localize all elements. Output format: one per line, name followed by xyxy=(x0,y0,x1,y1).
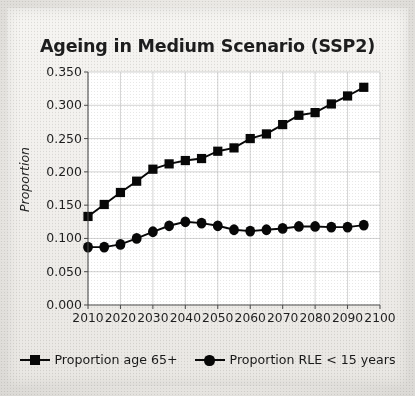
circle-marker-icon xyxy=(195,353,225,366)
data-point xyxy=(229,224,239,235)
data-point xyxy=(164,220,174,231)
data-point xyxy=(294,221,304,232)
legend-item-age65: Proportion age 65+ xyxy=(20,352,178,367)
data-point xyxy=(262,129,271,138)
data-point xyxy=(148,226,158,237)
data-point xyxy=(181,156,190,165)
y-axis-tick-labels: 0.3500.3000.2500.2000.1500.1000.0500.000 xyxy=(24,0,82,396)
data-point xyxy=(100,200,109,209)
data-point xyxy=(99,242,109,253)
data-point xyxy=(359,83,368,92)
data-point xyxy=(116,188,125,197)
plot-background xyxy=(88,72,380,305)
y-tick-label: 0.200 xyxy=(28,164,82,179)
data-point xyxy=(278,223,288,234)
data-point xyxy=(132,177,141,186)
data-point xyxy=(310,221,320,232)
data-point xyxy=(278,120,287,129)
data-point xyxy=(229,143,238,152)
legend-label-age65: Proportion age 65+ xyxy=(55,352,178,367)
x-tick-label: 2100 xyxy=(357,311,403,325)
data-point xyxy=(197,154,206,163)
chart-figure: Ageing in Medium Scenario (SSP2) Proport… xyxy=(0,0,415,396)
y-tick-label: 0.150 xyxy=(28,197,82,212)
data-point xyxy=(245,226,255,237)
data-point xyxy=(165,159,174,168)
data-point xyxy=(213,220,223,231)
data-point xyxy=(343,222,353,233)
data-point xyxy=(246,134,255,143)
y-tick-label: 0.000 xyxy=(28,297,82,312)
chart-legend: Proportion age 65+ Proportion RLE < 15 y… xyxy=(0,352,415,367)
data-point xyxy=(132,233,142,244)
y-tick-label: 0.100 xyxy=(28,230,82,245)
data-point xyxy=(213,147,222,156)
data-point xyxy=(148,165,157,174)
data-point xyxy=(197,218,207,229)
data-point xyxy=(262,224,272,235)
data-point xyxy=(294,111,303,120)
square-marker-icon xyxy=(20,353,50,366)
data-point xyxy=(180,216,190,227)
y-tick-label: 0.050 xyxy=(28,264,82,279)
legend-label-rle: Proportion RLE < 15 years xyxy=(230,352,396,367)
data-point xyxy=(327,99,336,108)
data-point xyxy=(343,91,352,100)
data-point xyxy=(326,222,336,233)
y-tick-label: 0.300 xyxy=(28,97,82,112)
y-tick-label: 0.250 xyxy=(28,131,82,146)
data-point xyxy=(116,239,126,250)
data-point xyxy=(311,108,320,117)
legend-item-rle: Proportion RLE < 15 years xyxy=(195,352,396,367)
data-point xyxy=(359,220,369,231)
y-tick-label: 0.350 xyxy=(28,64,82,79)
